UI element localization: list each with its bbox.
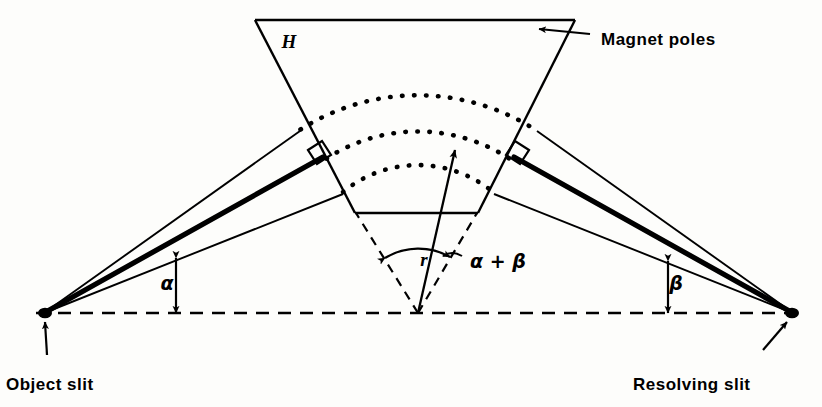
alpha-plus-beta-label: α + β bbox=[470, 250, 526, 272]
ion-path-arc-inner bbox=[343, 165, 493, 192]
resolving-slit-leader bbox=[763, 322, 787, 350]
magnet-poles-label: Magnet poles bbox=[601, 30, 716, 49]
beta-label: β bbox=[668, 272, 683, 294]
sector-ray-left bbox=[356, 213, 418, 313]
entrance-beam-bundle bbox=[44, 131, 343, 313]
radius-arrow bbox=[418, 150, 455, 313]
resolving-slit-point bbox=[785, 308, 799, 318]
entrance-ray-lower bbox=[44, 194, 343, 313]
ion-path-arc-middle bbox=[327, 131, 511, 159]
ion-path-arc-outer bbox=[301, 95, 537, 130]
radius-label: r bbox=[420, 249, 428, 270]
exit-beam-bundle bbox=[494, 131, 793, 313]
exit-ray-upper bbox=[537, 131, 793, 313]
object-slit-label: Object slit bbox=[6, 375, 94, 394]
resolving-slit-label: Resolving slit bbox=[633, 375, 751, 394]
magnet-pole-outline bbox=[255, 20, 575, 213]
field-symbol-label: H bbox=[281, 31, 298, 52]
exit-ray-central bbox=[514, 157, 793, 313]
object-slit-leader bbox=[45, 322, 47, 355]
exit-ray-lower bbox=[494, 194, 793, 313]
entrance-ray-central bbox=[44, 157, 323, 313]
angle-arc-alpha-plus-beta bbox=[385, 249, 450, 258]
figure-canvas: H Magnet poles Object slit Resolving sli… bbox=[0, 0, 822, 407]
magnetic-sector-diagram: H Magnet poles Object slit Resolving sli… bbox=[0, 0, 822, 407]
magnet-poles-leader bbox=[539, 29, 590, 34]
object-slit-point bbox=[38, 308, 52, 318]
sector-boundary-rays bbox=[356, 213, 477, 313]
alpha-label: α bbox=[160, 272, 174, 294]
